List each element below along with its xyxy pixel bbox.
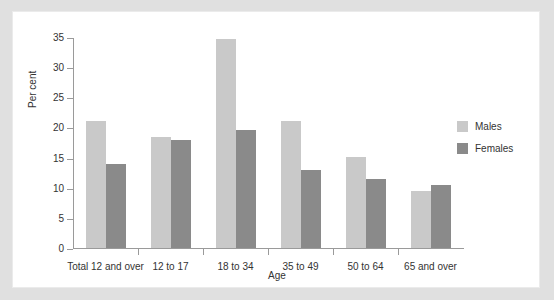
y-axis-tick-label: 15 [53, 151, 64, 167]
bar-females-1 [171, 140, 191, 248]
bars-layer [73, 38, 464, 249]
legend-swatch-icon [457, 143, 468, 154]
bar-females-5 [431, 185, 451, 248]
x-axis-tick-mark [138, 249, 139, 255]
y-axis-tick-label: 5 [58, 211, 64, 227]
x-axis-tick-mark [268, 249, 269, 255]
y-axis-tick-label: 10 [53, 181, 64, 197]
bar-males-4 [346, 157, 366, 248]
y-axis-tick-label: 20 [53, 120, 64, 136]
bar-males-3 [281, 121, 301, 248]
chart-legend: MalesFemales [457, 117, 513, 161]
chart-figure: Per cent 05101520253035 Total 12 and ove… [12, 11, 540, 288]
bar-males-2 [216, 39, 236, 248]
x-axis-tick-mark [203, 249, 204, 255]
legend-label: Males [475, 121, 502, 132]
bar-females-3 [301, 170, 321, 248]
legend-item-males[interactable]: Males [457, 117, 513, 135]
x-axis-title: Age [13, 270, 541, 281]
bar-males-0 [86, 121, 106, 248]
bar-males-5 [411, 191, 431, 248]
y-axis-title: Per cent [27, 71, 38, 108]
x-axis-tick-mark [398, 249, 399, 255]
bar-males-1 [151, 137, 171, 248]
y-axis-tick-label: 25 [53, 90, 64, 106]
y-axis-tick-label: 0 [58, 241, 64, 257]
bar-females-0 [106, 164, 126, 248]
legend-item-females[interactable]: Females [457, 139, 513, 157]
y-axis-tick-mark [67, 249, 73, 250]
legend-swatch-icon [457, 121, 468, 132]
y-axis-tick-label: 30 [53, 60, 64, 76]
bar-females-2 [236, 130, 256, 248]
y-axis-tick-label: 35 [53, 30, 64, 46]
plot-area: 05101520253035 Total 12 and over12 to 17… [73, 38, 463, 249]
legend-label: Females [475, 143, 513, 154]
x-axis-tick-mark [333, 249, 334, 255]
bar-females-4 [366, 179, 386, 248]
